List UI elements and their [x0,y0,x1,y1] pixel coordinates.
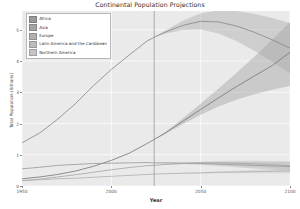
y-tick-label: 0 [9,184,19,189]
legend-swatch [29,16,37,23]
y-tick-label: 1 [9,152,19,157]
legend-label: Asia [39,26,48,30]
legend-item-africa[interactable]: Africa [29,16,107,23]
legend-item-northern-america[interactable]: Northern America [29,49,107,56]
legend-item-latin-america-and-the-caribbean[interactable]: Latin America and the Caribbean [29,41,107,48]
x-tick-label: 2000 [106,189,117,194]
legend-label: Latin America and the Caribbean [39,42,107,46]
x-tick-label: 2100 [284,189,295,194]
y-tick-mark [20,186,22,187]
legend-label: Europe [39,34,53,38]
chart-legend[interactable]: AfricaAsiaEuropeLatin America and the Ca… [26,13,111,59]
legend-label: Africa [39,17,51,21]
x-tick-mark [22,186,23,188]
legend-swatch [29,24,37,31]
y-tick-mark [20,155,22,156]
legend-swatch [29,41,37,48]
x-tick-label: 2050 [195,189,206,194]
y-tick-label: 5 [9,27,19,32]
legend-item-asia[interactable]: Asia [29,24,107,31]
chart-title: Continental Population Projections [0,1,300,8]
y-axis-label: Total Population (Billions) [9,58,14,144]
x-tick-label: 1950 [16,189,27,194]
legend-swatch [29,33,37,40]
legend-item-europe[interactable]: Europe [29,33,107,40]
chart-figure: Continental Population Projections 19502… [0,0,300,209]
legend-swatch [29,49,37,56]
y-tick-mark [20,92,22,93]
x-axis-label: Year [22,197,290,203]
y-tick-mark [20,124,22,125]
y-tick-mark [20,61,22,62]
y-tick-mark [20,30,22,31]
x-tick-mark [201,186,202,188]
x-tick-mark [290,186,291,188]
legend-label: Northern America [39,51,75,55]
x-tick-mark [111,186,112,188]
